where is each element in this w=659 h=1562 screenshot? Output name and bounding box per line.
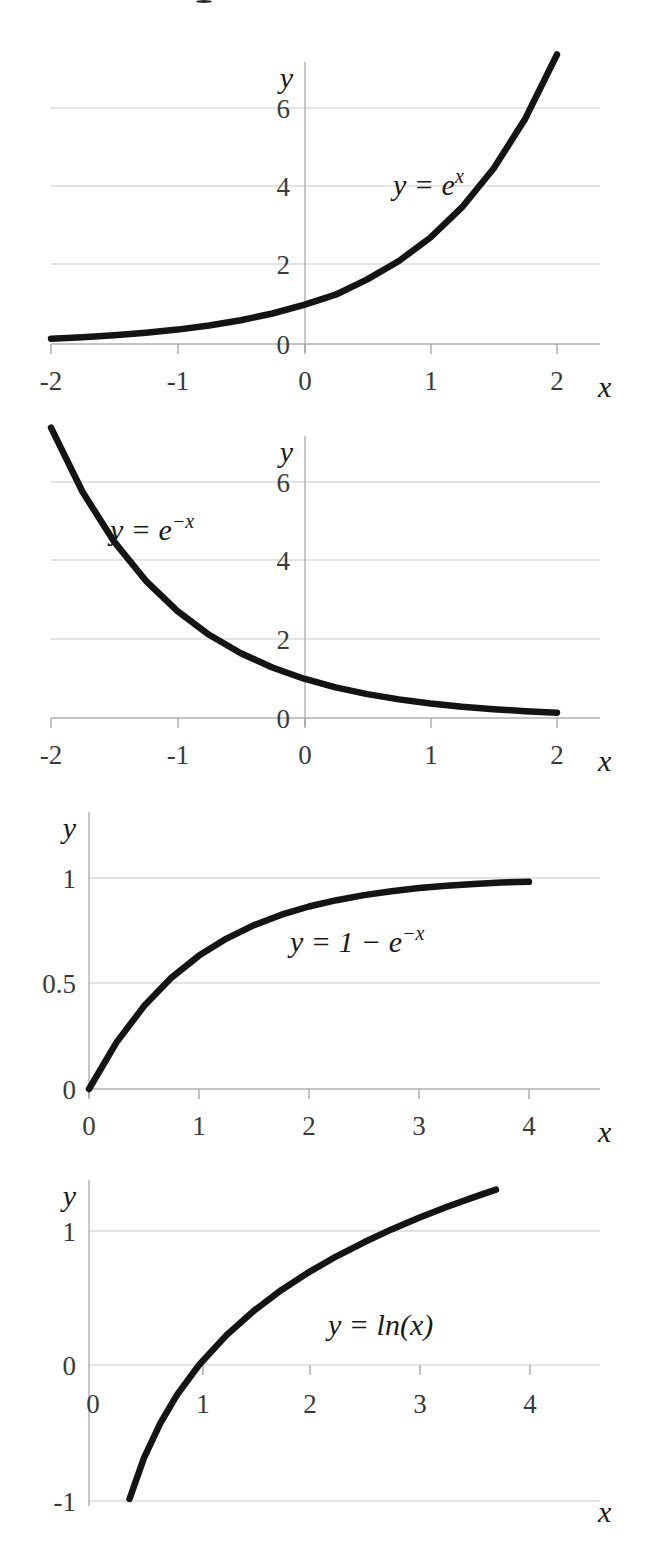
figure-page: 6 4 2 0 -2 -1 0 1 2 y x y = ex: [0, 0, 659, 1562]
xtick-label-4: 4: [522, 1111, 536, 1141]
curve-exp-growth: [51, 55, 557, 339]
equation-annotation: y = ln(x): [325, 1308, 433, 1342]
curve-saturating-exp: [89, 882, 529, 1089]
y-axis-label: y: [60, 1179, 77, 1212]
equation-annotation: y = 1 − e−x: [287, 922, 425, 958]
ytick-label-0: 0: [63, 1351, 77, 1381]
ytick-label-2: 2: [277, 250, 291, 280]
xtick-label-2: 2: [550, 740, 564, 770]
xtick-label-4: 4: [523, 1389, 537, 1419]
ytick-label-2: 2: [277, 625, 291, 655]
chart-natural-log: 1 0 -1 0 1 2 3 4 y x y = ln(x): [0, 1170, 659, 1562]
ytick-label-6: 6: [277, 94, 291, 124]
xtick-label-0: 0: [82, 1111, 96, 1141]
x-axis-label: x: [597, 744, 612, 777]
page-top-artifact: [196, 0, 212, 3]
xtick-label-1: 1: [196, 1389, 210, 1419]
xtick-label-1: 1: [424, 366, 438, 396]
chart-exp-decay-svg: 6 4 2 0 -2 -1 0 1 2 y x y = e−x: [0, 420, 659, 790]
x-axis-label: x: [597, 1115, 612, 1148]
chart-exp-decay: 6 4 2 0 -2 -1 0 1 2 y x y = e−x: [0, 420, 659, 790]
xtick-label-0: 0: [298, 366, 312, 396]
xtick-label-2: 2: [303, 1389, 317, 1419]
x-axis-label: x: [597, 1495, 612, 1528]
xtick-label-1: 1: [424, 740, 438, 770]
x-axis-label: x: [597, 370, 612, 403]
xtick-label-3: 3: [412, 1111, 426, 1141]
chart-natural-log-svg: 1 0 -1 0 1 2 3 4 y x y = ln(x): [0, 1170, 659, 1562]
equation-exponent: x: [454, 165, 464, 187]
xtick-label--1: -1: [167, 740, 190, 770]
xtick-label-2: 2: [550, 366, 564, 396]
ytick-label-0: 0: [277, 330, 291, 360]
ytick-label-0-5: 0.5: [42, 969, 76, 999]
equation-annotation: y = e−x: [107, 510, 194, 546]
xtick-label-1: 1: [192, 1111, 206, 1141]
y-axis-label: y: [277, 61, 294, 94]
chart-saturating-exp: 1 0.5 0 0 1 2 3 4 y x y = 1 − e−x: [0, 790, 659, 1160]
xtick-label--2: -2: [40, 740, 63, 770]
xtick-label-0: 0: [86, 1389, 100, 1419]
ytick-label--1: -1: [54, 1487, 77, 1517]
ytick-label-1: 1: [63, 1217, 77, 1247]
ytick-label-4: 4: [277, 546, 291, 576]
ytick-label-6: 6: [277, 468, 291, 498]
xtick-label-3: 3: [413, 1389, 427, 1419]
ytick-label-1: 1: [63, 864, 77, 894]
xtick-label--2: -2: [40, 366, 63, 396]
xtick-label-0: 0: [298, 740, 312, 770]
equation-exponent: −x: [172, 510, 194, 532]
chart-exp-growth-svg: 6 4 2 0 -2 -1 0 1 2 y x y = ex: [0, 40, 659, 410]
ytick-label-4: 4: [277, 172, 291, 202]
ytick-label-0: 0: [277, 704, 291, 734]
curve-exp-decay: [51, 428, 557, 713]
xtick-label-2: 2: [302, 1111, 316, 1141]
equation-base: y = e: [390, 168, 455, 201]
curve-natural-log: [130, 1190, 497, 1499]
ytick-label-0: 0: [63, 1075, 77, 1105]
equation-annotation: y = ex: [390, 165, 464, 201]
y-axis-label: y: [60, 811, 77, 844]
equation-base: y = 1 − e: [287, 925, 402, 958]
y-axis-label: y: [277, 435, 294, 468]
xtick-label--1: -1: [167, 366, 190, 396]
chart-exp-growth: 6 4 2 0 -2 -1 0 1 2 y x y = ex: [0, 40, 659, 410]
chart-saturating-exp-svg: 1 0.5 0 0 1 2 3 4 y x y = 1 − e−x: [0, 790, 659, 1160]
equation-exponent: −x: [402, 922, 424, 944]
